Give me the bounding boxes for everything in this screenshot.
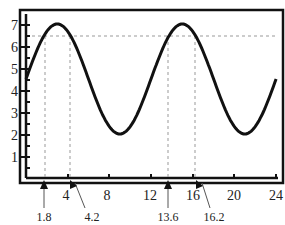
x-tick-label: 8 xyxy=(104,188,111,203)
x-tick-label: 16 xyxy=(186,188,200,203)
y-tick-label: 2 xyxy=(11,128,18,143)
x-tick-label: 20 xyxy=(227,188,241,203)
y-tick-label: 6 xyxy=(11,40,18,55)
annotation-label: 16.2 xyxy=(204,210,225,224)
y-tick-label: 1 xyxy=(11,150,18,165)
annotation-label: 4.2 xyxy=(85,210,100,224)
y-tick-label: 7 xyxy=(11,18,18,33)
chart: 1 2 3 4 5 6 7 4 8 12 16 20 24 1.8 4.2 13… xyxy=(0,0,285,225)
x-tick-label: 24 xyxy=(269,188,283,203)
data-curve xyxy=(26,24,276,134)
annotation-label: 13.6 xyxy=(158,210,179,224)
y-tick-label: 3 xyxy=(11,106,18,121)
x-tick-label: 12 xyxy=(143,188,157,203)
annotation-label: 1.8 xyxy=(37,210,52,224)
x-tick-label: 4 xyxy=(63,188,70,203)
y-tick-label: 5 xyxy=(11,62,18,77)
y-tick-label: 4 xyxy=(11,84,18,99)
